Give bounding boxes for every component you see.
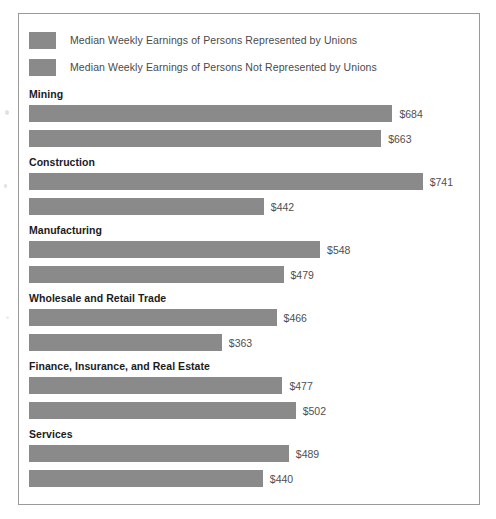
bar-value-label: $466 [284, 312, 307, 324]
bar-group-title: Finance, Insurance, and Real Estate [29, 360, 473, 372]
bar-row: $548 [29, 241, 473, 258]
bar [29, 173, 423, 190]
bar-row: $442 [29, 198, 473, 215]
chart-legend: Median Weekly Earnings of Persons Repres… [29, 30, 469, 84]
bar-value-label: $440 [270, 473, 293, 485]
bar-row: $741 [29, 173, 473, 190]
bar-group: Manufacturing$548$479 [29, 224, 473, 283]
scan-artifact [5, 110, 9, 115]
bar [29, 266, 284, 283]
bar-group: Services$489$440 [29, 428, 473, 487]
bar-group: Wholesale and Retail Trade$466$363 [29, 292, 473, 351]
bar [29, 445, 289, 462]
bar-row: $489 [29, 445, 473, 462]
bar-value-label: $741 [430, 176, 453, 188]
scan-artifact [4, 184, 7, 188]
bar-value-label: $442 [271, 201, 294, 213]
bar [29, 198, 264, 215]
legend-item-label: Median Weekly Earnings of Persons Not Re… [70, 61, 377, 73]
bar-value-label: $548 [327, 244, 350, 256]
legend-swatch-icon [29, 32, 56, 49]
legend-item-label: Median Weekly Earnings of Persons Repres… [70, 34, 357, 46]
bar-row: $466 [29, 309, 473, 326]
scan-artifact [6, 316, 9, 319]
bar-value-label: $477 [289, 380, 312, 392]
bar-row: $479 [29, 266, 473, 283]
bar [29, 241, 320, 258]
bar-group-title: Wholesale and Retail Trade [29, 292, 473, 304]
bar [29, 309, 277, 326]
bar [29, 334, 222, 351]
bar [29, 130, 381, 147]
bar-row: $663 [29, 130, 473, 147]
bar-group-title: Manufacturing [29, 224, 473, 236]
bar-groups: Mining$684$663Construction$741$442Manufa… [29, 88, 473, 496]
bar-group-title: Construction [29, 156, 473, 168]
bar-row: $502 [29, 402, 473, 419]
bar-value-label: $684 [399, 108, 422, 120]
bar-row: $363 [29, 334, 473, 351]
bar [29, 470, 263, 487]
bar [29, 377, 282, 394]
bar [29, 402, 296, 419]
legend-item: Median Weekly Earnings of Persons Not Re… [29, 57, 469, 77]
bar-group-title: Services [29, 428, 473, 440]
bar-value-label: $363 [229, 337, 252, 349]
bar-row: $684 [29, 105, 473, 122]
bar-group: Construction$741$442 [29, 156, 473, 215]
bar-value-label: $479 [291, 269, 314, 281]
bar-value-label: $663 [388, 133, 411, 145]
bar-group-title: Mining [29, 88, 473, 100]
chart-frame: Median Weekly Earnings of Persons Repres… [18, 13, 480, 505]
bar-group: Mining$684$663 [29, 88, 473, 147]
bar-value-label: $489 [296, 448, 319, 460]
legend-item: Median Weekly Earnings of Persons Repres… [29, 30, 469, 50]
legend-swatch-icon [29, 59, 56, 76]
bar-row: $440 [29, 470, 473, 487]
bar [29, 105, 392, 122]
bar-group: Finance, Insurance, and Real Estate$477$… [29, 360, 473, 419]
bar-row: $477 [29, 377, 473, 394]
bar-value-label: $502 [303, 405, 326, 417]
